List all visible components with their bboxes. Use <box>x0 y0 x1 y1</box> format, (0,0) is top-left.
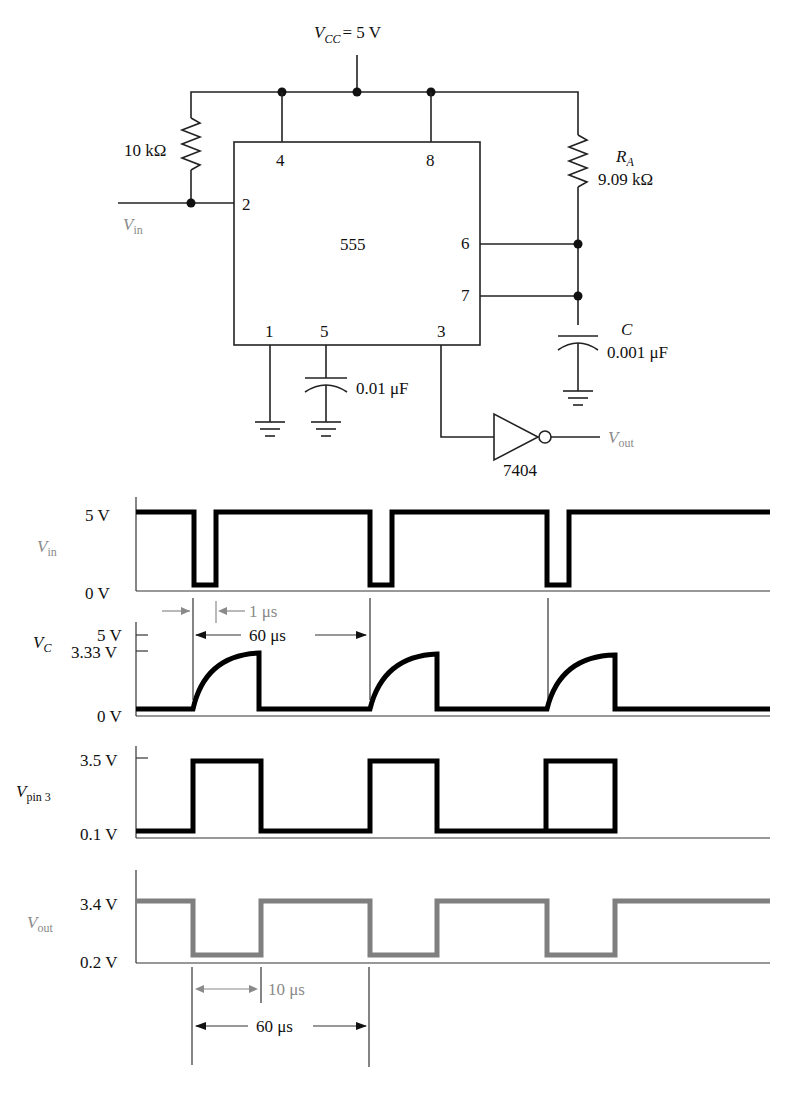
pin-1-label: 1 <box>265 322 274 341</box>
timer-diagram: VCC= 5 V 555 4 8 2 6 7 1 5 3 10 kΩ Vin <box>0 0 798 1095</box>
ground-pin1-icon <box>255 345 285 436</box>
vpin3-trace <box>136 761 615 831</box>
vc-axis-label: VC <box>33 633 52 655</box>
pin-4-label: 4 <box>276 151 285 170</box>
junction-dot <box>187 199 196 208</box>
inverter-7404-icon <box>494 414 551 460</box>
vc-low-tick: 0 V <box>97 707 122 726</box>
vpin3-high-tick: 3.5 V <box>80 751 118 770</box>
pulse-width-label: 10 μs <box>268 980 305 999</box>
ra-value: 9.09 kΩ <box>598 170 653 189</box>
resistor-ra-icon <box>569 135 587 187</box>
resistor-10k-icon <box>182 118 200 170</box>
vpin3-low-tick: 0.1 V <box>80 825 118 844</box>
pin-5-label: 5 <box>320 322 329 341</box>
control-cap-value: 0.01 μF <box>356 379 409 398</box>
vin-label: Vin <box>123 215 143 237</box>
vpin3-axis-label: Vpin 3 <box>16 782 51 804</box>
vin-waveform-panel: 5 V 0 V Vin <box>37 497 770 603</box>
pin-3-label: 3 <box>437 322 446 341</box>
vpin3-waveform-panel: 3.5 V 0.1 V Vpin 3 <box>16 746 770 844</box>
pin-2-label: 2 <box>242 195 251 214</box>
c-value: 0.001 μF <box>607 343 668 362</box>
vc-trace <box>136 653 770 709</box>
inverter-label: 7404 <box>503 461 538 480</box>
vout-waveform-panel: 3.4 V 0.2 V Vout <box>27 870 770 972</box>
trigger-width-label: 1 μs <box>249 602 277 621</box>
vin-low-tick: 0 V <box>85 584 110 603</box>
capacitor-control-icon <box>305 345 347 436</box>
vc-waveform-panel: 5 V 3.33 V 0 V VC 60 μs <box>33 598 770 726</box>
vin-axis-label: Vin <box>37 537 57 559</box>
pin-7-label: 7 <box>461 286 470 305</box>
vin-high-tick: 5 V <box>85 506 110 525</box>
period-top-label: 60 μs <box>249 626 286 645</box>
resistor-10k-label: 10 kΩ <box>124 141 166 160</box>
vout-axis-label: Vout <box>27 913 53 935</box>
vout-label: Vout <box>608 428 634 450</box>
vout-high-tick: 3.4 V <box>80 895 118 914</box>
junction-dot <box>353 88 362 97</box>
pin-8-label: 8 <box>426 151 435 170</box>
c-label: C <box>621 320 633 339</box>
vout-low-tick: 0.2 V <box>80 953 118 972</box>
vin-trace <box>136 512 770 585</box>
junction-dot <box>574 240 583 249</box>
ra-label: RA <box>615 147 634 169</box>
timing-waveforms: 5 V 0 V Vin 1 μs 5 V 3.33 V 0 V <box>16 497 770 1067</box>
timing-annotations-bottom: 10 μs 60 μs <box>192 967 369 1067</box>
top-rail-wire <box>191 92 578 135</box>
vc-threshold-tick: 3.33 V <box>71 643 118 662</box>
pin3-wire <box>441 345 494 437</box>
vout-trace <box>136 901 770 955</box>
capacitor-c-icon <box>558 336 598 405</box>
schematic: VCC= 5 V 555 4 8 2 6 7 1 5 3 10 kΩ Vin <box>118 23 668 480</box>
period-bottom-label: 60 μs <box>256 1017 293 1036</box>
junction-dot <box>574 292 583 301</box>
trigger-width-annotation: 1 μs <box>162 601 277 623</box>
ic-555-label: 555 <box>340 235 366 254</box>
pin-6-label: 6 <box>461 234 470 253</box>
vcc-label: VCC= 5 V <box>314 23 382 46</box>
